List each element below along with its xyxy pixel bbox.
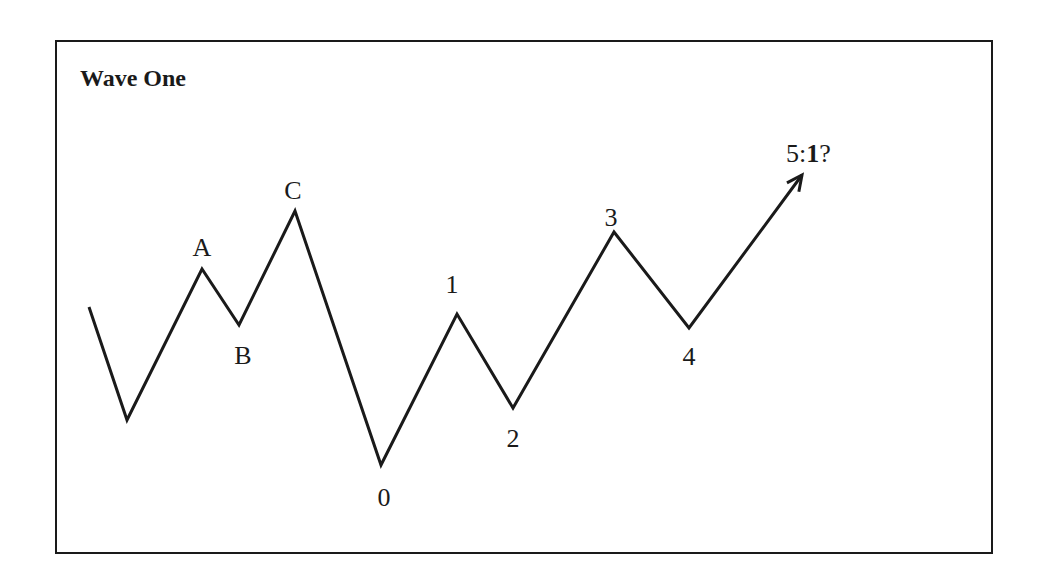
wave-labels: ABC01234 — [193, 176, 696, 512]
wave-label-B: B — [234, 341, 251, 370]
projection-label: 5:1? — [786, 139, 831, 168]
wave-label-A: A — [193, 233, 212, 262]
wave-label-C: C — [284, 176, 301, 205]
wave-label-4: 4 — [683, 342, 696, 371]
wave-label-2: 2 — [507, 424, 520, 453]
projection-suffix: ? — [819, 139, 831, 168]
wave-line — [89, 175, 802, 465]
projection-prefix: 5: — [786, 139, 806, 168]
wave-label-0: 0 — [378, 483, 391, 512]
projection-bold: 1 — [806, 139, 819, 168]
wave-label-1: 1 — [446, 270, 459, 299]
wave-diagram: ABC01234 5:1? — [0, 0, 1041, 584]
wave-label-3: 3 — [605, 203, 618, 232]
